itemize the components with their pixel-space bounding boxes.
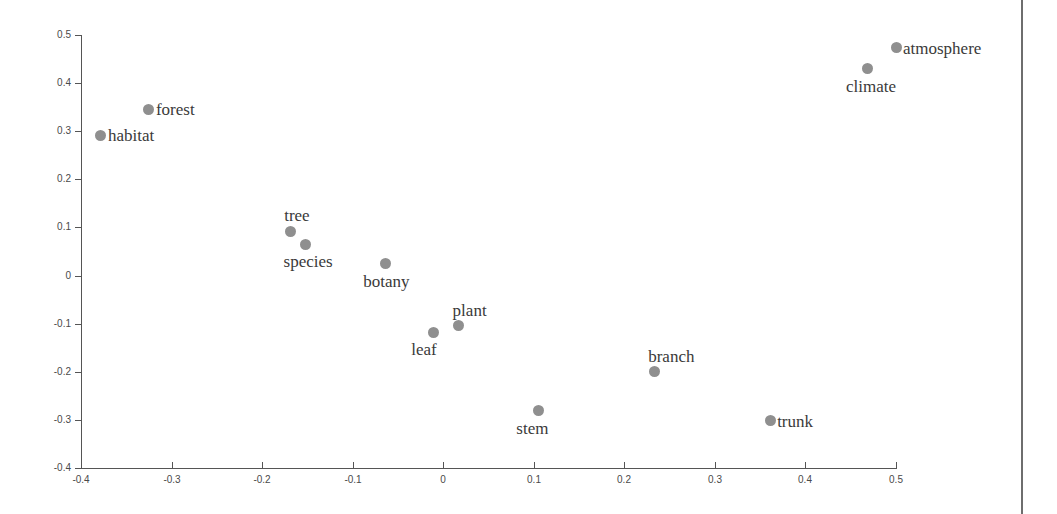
y-tick-mark (75, 372, 81, 373)
x-tick-label: -0.3 (152, 474, 192, 485)
y-tick-mark (75, 83, 81, 84)
data-point-label: stem (516, 420, 548, 437)
data-point[interactable] (453, 320, 464, 331)
y-tick-label: 0 (37, 270, 71, 281)
x-tick-label: -0.2 (242, 474, 282, 485)
y-tick-label: -0.4 (37, 462, 71, 473)
x-axis-line (81, 468, 897, 469)
data-point-label: atmosphere (903, 40, 981, 57)
y-tick-mark (75, 131, 81, 132)
y-tick-label: -0.2 (37, 366, 71, 377)
data-point[interactable] (95, 130, 106, 141)
y-tick-label: -0.1 (37, 318, 71, 329)
x-tick-mark (805, 462, 806, 469)
x-tick-mark (534, 462, 535, 469)
x-tick-mark (715, 462, 716, 469)
right-margin (1023, 0, 1057, 514)
y-tick-label: 0.5 (37, 29, 71, 40)
data-point-label: forest (156, 101, 195, 118)
data-point[interactable] (533, 405, 544, 416)
data-point[interactable] (300, 239, 311, 250)
scatter-plot-figure: 0.50.40.30.20.10-0.1-0.2-0.3-0.4 -0.4-0.… (0, 0, 1057, 514)
data-point-label: branch (648, 348, 694, 365)
x-tick-mark (262, 462, 263, 469)
x-tick-label: 0 (423, 474, 463, 485)
data-point[interactable] (143, 104, 154, 115)
data-point-label: habitat (108, 127, 154, 144)
x-tick-label: 0.2 (604, 474, 644, 485)
y-tick-mark (75, 420, 81, 421)
y-tick-label: 0.2 (37, 173, 71, 184)
x-tick-label: -0.1 (333, 474, 373, 485)
data-point-label: trunk (777, 413, 813, 430)
data-point-label: leaf (411, 341, 436, 358)
data-point[interactable] (765, 415, 776, 426)
y-tick-mark (75, 276, 81, 277)
data-point-label: species (284, 253, 333, 270)
x-tick-label: 0.3 (695, 474, 735, 485)
x-tick-mark (172, 462, 173, 469)
data-point[interactable] (649, 366, 660, 377)
y-tick-label: 0.1 (37, 221, 71, 232)
data-point[interactable] (862, 63, 873, 74)
y-tick-mark (75, 179, 81, 180)
x-tick-label: 0.4 (785, 474, 825, 485)
plot-area: 0.50.40.30.20.10-0.1-0.2-0.3-0.4 -0.4-0.… (0, 0, 1057, 514)
x-tick-label: 0.1 (514, 474, 554, 485)
x-tick-mark (353, 462, 354, 469)
y-tick-label: 0.3 (37, 125, 71, 136)
y-axis-line (81, 35, 82, 469)
x-tick-label: -0.4 (61, 474, 101, 485)
x-tick-mark (624, 462, 625, 469)
data-point-label: plant (453, 302, 487, 319)
data-point-label: climate (846, 78, 896, 95)
x-tick-mark (81, 462, 82, 469)
data-point[interactable] (380, 258, 391, 269)
x-tick-label: 0.5 (876, 474, 916, 485)
x-tick-mark (896, 462, 897, 469)
x-tick-mark (443, 462, 444, 469)
data-point[interactable] (428, 327, 439, 338)
data-point[interactable] (891, 42, 902, 53)
y-tick-label: 0.4 (37, 77, 71, 88)
data-point[interactable] (285, 226, 296, 237)
y-tick-label: -0.3 (37, 414, 71, 425)
data-point-label: botany (363, 273, 409, 290)
y-tick-mark (75, 35, 81, 36)
y-tick-mark (75, 324, 81, 325)
y-tick-mark (75, 227, 81, 228)
data-point-label: tree (284, 207, 309, 224)
